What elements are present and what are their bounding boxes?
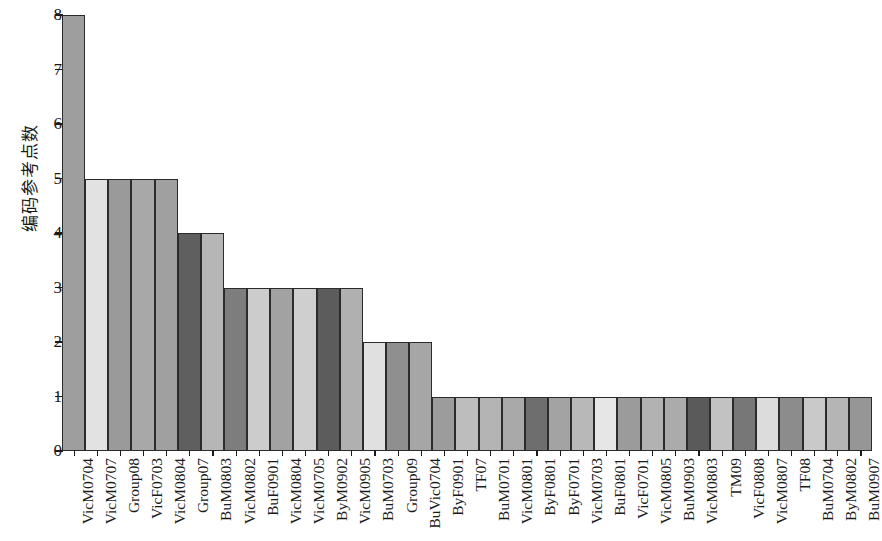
- bar: [826, 397, 849, 452]
- x-tick-label: VicM0703: [589, 458, 605, 524]
- bar: [525, 397, 548, 452]
- bar: [201, 233, 224, 451]
- bar: [756, 397, 779, 452]
- bar: [779, 397, 802, 452]
- bar: [62, 15, 85, 451]
- x-tick-label: ByM0902: [334, 458, 350, 521]
- bar: [340, 288, 363, 452]
- x-tick-label: VicF0701: [635, 458, 651, 519]
- x-tick-label: BuF0901: [265, 458, 281, 516]
- x-tick-mark: [583, 450, 584, 456]
- bar: [733, 397, 756, 452]
- x-axis-labels: VicM0704VicM0707Group08VicF0703VicM0804G…: [62, 450, 872, 541]
- x-tick-mark: [814, 450, 815, 456]
- x-tick-label: Group07: [195, 458, 211, 513]
- bar: [155, 179, 178, 452]
- x-tick-mark: [606, 450, 607, 456]
- bar: [455, 397, 478, 452]
- x-tick-label: ByF0801: [542, 458, 558, 516]
- x-tick-label: BuM0703: [380, 458, 396, 521]
- bar: [641, 397, 664, 452]
- y-tick-label: 7: [26, 61, 62, 78]
- x-tick-mark: [536, 450, 537, 456]
- y-tick-label: 5: [26, 170, 62, 187]
- x-tick-mark: [421, 450, 422, 456]
- bar: [479, 397, 502, 452]
- bar: [687, 397, 710, 452]
- bar: [432, 397, 455, 452]
- bar: [571, 397, 594, 452]
- x-tick-mark: [143, 450, 144, 456]
- x-tick-label: BuM0701: [496, 458, 512, 521]
- bar: [363, 342, 386, 451]
- x-tick-mark: [351, 450, 352, 456]
- bar: [131, 179, 154, 452]
- x-tick-label: ByF0901: [450, 458, 466, 516]
- x-tick-label: TM09: [728, 458, 744, 497]
- x-tick-label: VicM0803: [704, 458, 720, 524]
- x-tick-label: BuM0907: [866, 458, 882, 521]
- x-tick-label: VicM0805: [658, 458, 674, 524]
- x-tick-mark: [722, 450, 723, 456]
- x-tick-label: VicM0905: [357, 458, 373, 524]
- x-tick-mark: [698, 450, 699, 456]
- bar: [247, 288, 270, 452]
- plot-area: [62, 15, 872, 451]
- x-tick-label: VicM0801: [519, 458, 535, 524]
- x-tick-mark: [467, 450, 468, 456]
- x-tick-label: BuM0903: [681, 458, 697, 521]
- bar: [270, 288, 293, 452]
- y-tick-label: 3: [26, 279, 62, 296]
- x-tick-mark: [97, 450, 98, 456]
- bar: [594, 397, 617, 452]
- y-tick-label: 2: [26, 333, 62, 350]
- bar: [849, 397, 872, 452]
- x-tick-mark: [860, 450, 861, 456]
- x-tick-label: VicM0804: [288, 458, 304, 524]
- x-tick-label: VicM0704: [80, 458, 96, 524]
- x-tick-label: Group09: [404, 458, 420, 513]
- x-tick-label: VicF0808: [751, 458, 767, 519]
- bar: [664, 397, 687, 452]
- x-tick-label: ByF0701: [566, 458, 582, 516]
- bar: [502, 397, 525, 452]
- x-tick-label: VicM0802: [242, 458, 258, 524]
- x-tick-mark: [629, 450, 630, 456]
- bar: [108, 179, 131, 452]
- x-tick-mark: [444, 450, 445, 456]
- bar: [224, 288, 247, 452]
- bar: [85, 179, 108, 452]
- y-tick-label: 6: [26, 115, 62, 132]
- bar: [386, 342, 409, 451]
- x-tick-label: BuF0801: [612, 458, 628, 516]
- x-tick-mark: [652, 450, 653, 456]
- x-tick-mark: [282, 450, 283, 456]
- x-tick-label: VicM0705: [311, 458, 327, 524]
- x-tick-mark: [768, 450, 769, 456]
- x-tick-mark: [236, 450, 237, 456]
- bar: [178, 233, 201, 451]
- bar: [293, 288, 316, 452]
- bar: [617, 397, 640, 452]
- x-tick-mark: [189, 450, 190, 456]
- x-tick-label: Group08: [126, 458, 142, 513]
- x-tick-label: BuM0803: [218, 458, 234, 521]
- bar: [317, 288, 340, 452]
- x-tick-label: VicM0707: [103, 458, 119, 524]
- y-tick-label: 4: [26, 224, 62, 241]
- bar: [409, 342, 432, 451]
- x-tick-label: VicF0703: [149, 458, 165, 519]
- x-tick-mark: [398, 450, 399, 456]
- y-axis-ticks: 012345678: [0, 0, 62, 541]
- bar: [803, 397, 826, 452]
- x-tick-mark: [166, 450, 167, 456]
- x-tick-mark: [212, 450, 213, 456]
- x-tick-label: VicM0807: [774, 458, 790, 524]
- y-tick-label: 8: [26, 6, 62, 23]
- x-tick-mark: [74, 450, 75, 456]
- x-tick-label: TF07: [473, 458, 489, 492]
- y-tick-label: 1: [26, 388, 62, 405]
- x-tick-mark: [328, 450, 329, 456]
- x-tick-label: ByM0802: [843, 458, 859, 521]
